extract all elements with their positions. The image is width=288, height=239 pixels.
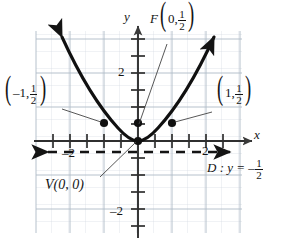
x-tick-neg2-value: 2 <box>69 145 76 160</box>
x-axis-label: x <box>254 128 260 141</box>
directrix-numerator: 1 <box>255 158 263 169</box>
point-focus <box>134 119 142 127</box>
focus-label-name: F <box>150 11 158 26</box>
focus-denominator: 2 <box>178 20 186 32</box>
graph-svg <box>0 0 288 239</box>
right-fraction: 12 <box>235 83 243 106</box>
right-x-value: 1, <box>225 85 235 100</box>
y-tick-label-neg2: –2 <box>110 202 123 218</box>
focus-x-value: 0, <box>168 11 178 26</box>
point-vertex <box>134 137 142 145</box>
left-fraction: 12 <box>30 83 38 106</box>
right-denominator: 2 <box>235 94 243 106</box>
x-tick-label-2: 2 <box>202 144 209 157</box>
point-right <box>168 119 176 127</box>
vertex-label: V(0, 0) <box>45 178 84 192</box>
directrix-denominator: 2 <box>255 169 263 181</box>
focus-fraction: 12 <box>178 9 186 32</box>
y-tick-label-2: 2 <box>118 65 125 78</box>
focus-numerator: 1 <box>178 9 186 20</box>
grid-layer <box>36 31 242 233</box>
left-numerator: 1 <box>30 83 38 94</box>
y-axis-label: y <box>124 10 130 23</box>
focus-label: F(0,12) <box>150 9 196 32</box>
right-point-label: (1,12) <box>215 83 253 106</box>
y-tick-neg2-value: 2 <box>117 203 124 218</box>
left-point-label: (–1,12) <box>3 83 48 106</box>
directrix-fraction: 12 <box>255 158 263 181</box>
left-x-value: –1, <box>13 85 29 100</box>
right-numerator: 1 <box>235 83 243 94</box>
figure-canvas: y x 2 –2 –2 2 F(0,12) (–1,12) (1,12) V(0… <box>0 0 288 239</box>
directrix-prefix: D : y = – <box>207 160 255 175</box>
directrix-label: D : y = –12 <box>207 158 263 181</box>
point-left <box>100 119 108 127</box>
left-denominator: 2 <box>30 94 38 106</box>
x-tick-label-neg2: –2 <box>62 144 75 160</box>
